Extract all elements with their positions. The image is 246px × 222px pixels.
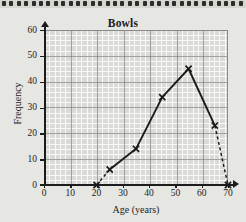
binding-hole [9, 1, 13, 6]
frequency-polygon-figure: Bowls 0 10 20 30 40 50 60 70 60 50 40 30… [0, 8, 246, 222]
binding-hole [172, 1, 176, 6]
binding-hole [98, 1, 102, 6]
binding-hole [106, 1, 110, 6]
data-point-cross-marker [133, 146, 139, 152]
series-segment [189, 69, 215, 126]
binding-hole [209, 1, 213, 6]
frequency-polygon-series [93, 66, 231, 188]
data-point-cross-marker [159, 94, 165, 100]
binding-hole [202, 1, 206, 6]
binding-hole [239, 1, 243, 6]
binding-hole [231, 1, 235, 6]
binding-hole [32, 1, 36, 6]
binding-hole [187, 1, 191, 6]
binding-hole [69, 1, 73, 6]
binding-hole [224, 1, 228, 6]
binding-hole [83, 1, 87, 6]
binding-hole [24, 1, 28, 6]
binding-hole [135, 1, 139, 6]
series-segment [110, 149, 136, 170]
series-segment [136, 97, 162, 149]
binding-hole [165, 1, 169, 6]
binding-hole [2, 1, 6, 6]
binding-hole [143, 1, 147, 6]
binding-hole [76, 1, 80, 6]
series-segment [162, 69, 188, 97]
binding-hole [61, 1, 65, 6]
binding-hole [54, 1, 58, 6]
binding-hole [91, 1, 95, 6]
binding-hole [157, 1, 161, 6]
data-series-layer [0, 8, 246, 222]
series-segment [215, 126, 228, 185]
binding-hole [194, 1, 198, 6]
binding-hole [180, 1, 184, 6]
data-point-cross-marker [107, 166, 113, 172]
binding-hole [46, 1, 50, 6]
binding-hole [113, 1, 117, 6]
binding-hole [17, 1, 21, 6]
data-point-cross-marker [93, 182, 99, 188]
binding-hole [39, 1, 43, 6]
binding-hole [128, 1, 132, 6]
binding-hole [217, 1, 221, 6]
binding-hole [150, 1, 154, 6]
binding-hole [120, 1, 124, 6]
